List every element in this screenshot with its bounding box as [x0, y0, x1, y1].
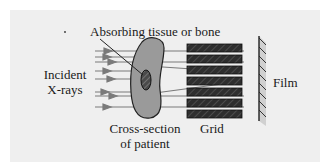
label-patient-line2: of patient — [105, 137, 185, 150]
label-film: Film — [273, 76, 298, 89]
absorbing-tissue — [141, 70, 151, 90]
label-patient-line1: Cross-section — [105, 122, 185, 135]
label-patient: Cross-section of patient — [105, 122, 185, 150]
label-absorbing-tissue: Absorbing tissue or bone — [90, 25, 220, 38]
film — [259, 36, 266, 126]
label-incident-line2: X-rays — [40, 83, 90, 96]
label-grid: Grid — [200, 122, 224, 135]
label-incident-xrays: Incident X-rays — [40, 68, 90, 96]
label-incident-line1: Incident — [40, 68, 90, 81]
dot-mark — [64, 31, 66, 33]
grid — [187, 44, 242, 118]
